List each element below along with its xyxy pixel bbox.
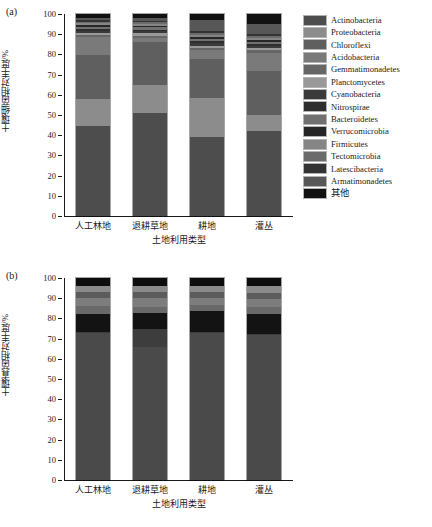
legend-item: Armatimonadetes bbox=[304, 175, 400, 187]
bar-segment bbox=[133, 313, 167, 328]
y-tick-label: 0 bbox=[52, 212, 56, 220]
bar-segment bbox=[247, 278, 281, 286]
bar-segment bbox=[76, 37, 110, 55]
y-tick-label: 80 bbox=[48, 50, 57, 58]
bar-segment bbox=[133, 278, 167, 286]
bar-segment bbox=[133, 298, 167, 307]
x-tick-label: 退耕草地 bbox=[132, 483, 168, 496]
bar-segment bbox=[133, 42, 167, 85]
panel-a-y-ticks: 0102030405060708090100 bbox=[0, 14, 62, 217]
bar-segment bbox=[190, 311, 224, 331]
bar-segment bbox=[247, 335, 281, 480]
legend-label: Chloroflexi bbox=[331, 41, 371, 50]
legend-color-swatch bbox=[304, 189, 326, 198]
legend-item: Latescibacteria bbox=[304, 163, 400, 175]
legend-label: Proteobacteria bbox=[331, 28, 381, 37]
legend-color-swatch bbox=[304, 177, 326, 186]
y-tick-mark bbox=[58, 359, 62, 360]
y-tick-label: 60 bbox=[48, 355, 57, 363]
bar-segment bbox=[247, 286, 281, 293]
y-tick-label: 50 bbox=[48, 375, 57, 383]
legend-label: Gemmatimonadetes bbox=[331, 65, 400, 74]
legend-item: Firmicutes bbox=[304, 138, 400, 150]
legend-label: Latescibacteria bbox=[331, 165, 383, 174]
panel-a: (a) 土壤细菌相对丰度/% 0102030405060708090100 人工… bbox=[0, 0, 432, 263]
legend-color-swatch bbox=[304, 16, 326, 25]
legend-label: Planctomycetes bbox=[331, 78, 385, 87]
y-tick-mark bbox=[58, 460, 62, 461]
bar-segment bbox=[247, 131, 281, 216]
y-tick-label: 70 bbox=[48, 335, 57, 343]
legend-color-swatch bbox=[304, 115, 326, 124]
legend-label: Armatimonadetes bbox=[331, 177, 392, 186]
y-tick-mark bbox=[58, 75, 62, 76]
legend-item: Chloroflexi bbox=[304, 39, 400, 51]
legend-item: Proteobacteria bbox=[304, 26, 400, 38]
y-tick-label: 10 bbox=[48, 192, 57, 200]
y-tick-label: 20 bbox=[48, 436, 57, 444]
bar-segment bbox=[76, 306, 110, 314]
legend-item: Nitrospirae bbox=[304, 101, 400, 113]
bar-segment bbox=[190, 333, 224, 480]
legend-color-swatch bbox=[304, 127, 326, 136]
legend-item: 其他 bbox=[304, 187, 400, 199]
x-tick-label: 退耕草地 bbox=[132, 219, 168, 232]
legend-label: Verrucomicrobia bbox=[331, 127, 389, 136]
bar-segment bbox=[190, 137, 224, 216]
bar-segment bbox=[76, 99, 110, 126]
y-tick-label: 40 bbox=[48, 395, 57, 403]
y-tick-mark bbox=[58, 399, 62, 400]
legend-color-swatch bbox=[304, 140, 326, 149]
panel-a-legend: ActinobacteriaProteobacteriaChloroflexiA… bbox=[304, 14, 400, 200]
panel-b-x-axis-line bbox=[64, 480, 293, 481]
legend-label: 其他 bbox=[331, 189, 349, 198]
y-tick-label: 100 bbox=[43, 274, 56, 282]
bar-segment bbox=[247, 314, 281, 333]
stacked-bar bbox=[133, 278, 167, 480]
legend-label: Tectomicrobia bbox=[331, 152, 381, 161]
y-tick-label: 60 bbox=[48, 91, 57, 99]
y-tick-mark bbox=[58, 176, 62, 177]
legend-item: Tectomicrobia bbox=[304, 150, 400, 162]
y-tick-mark bbox=[58, 339, 62, 340]
bar-segment bbox=[247, 115, 281, 131]
y-tick-mark bbox=[58, 196, 62, 197]
legend-color-swatch bbox=[304, 90, 326, 99]
y-tick-mark bbox=[58, 379, 62, 380]
bar-segment bbox=[133, 113, 167, 216]
legend-label: Acidobacteria bbox=[331, 53, 379, 62]
legend-color-swatch bbox=[304, 164, 326, 173]
panel-b-x-axis-title: 土地利用类型 bbox=[64, 497, 293, 510]
legend-item: Bacteroidetes bbox=[304, 113, 400, 125]
y-tick-label: 50 bbox=[48, 111, 57, 119]
y-tick-mark bbox=[58, 278, 62, 279]
bar-segment bbox=[76, 126, 110, 216]
y-tick-label: 10 bbox=[48, 456, 57, 464]
panel-a-plot-area bbox=[64, 14, 292, 216]
legend-item: Planctomycetes bbox=[304, 76, 400, 88]
stacked-bar bbox=[190, 278, 224, 480]
y-tick-mark bbox=[58, 419, 62, 420]
y-tick-label: 40 bbox=[48, 131, 57, 139]
legend-label: Nitrospirae bbox=[331, 103, 370, 112]
legend-color-swatch bbox=[304, 28, 326, 37]
stacked-bar bbox=[190, 14, 224, 216]
y-tick-mark bbox=[58, 440, 62, 441]
stacked-bar bbox=[133, 14, 167, 216]
legend-label: Bacteroidetes bbox=[331, 115, 378, 124]
stacked-bar bbox=[247, 14, 281, 216]
bar-segment bbox=[190, 50, 224, 59]
bar-segment bbox=[133, 347, 167, 480]
legend-label: Firmicutes bbox=[331, 140, 368, 149]
stacked-bar bbox=[76, 278, 110, 480]
x-tick-label: 耕地 bbox=[198, 483, 216, 496]
y-tick-label: 30 bbox=[48, 415, 57, 423]
legend-label: Cyanobacteria bbox=[331, 90, 381, 99]
y-tick-mark bbox=[58, 95, 62, 96]
panel-b-y-ticks: 0102030405060708090100 bbox=[0, 278, 62, 481]
bar-segment bbox=[190, 298, 224, 305]
bar-segment bbox=[190, 98, 224, 137]
bar-segment bbox=[133, 85, 167, 113]
panel-a-x-axis-title: 土地利用类型 bbox=[64, 233, 293, 246]
y-tick-label: 70 bbox=[48, 71, 57, 79]
